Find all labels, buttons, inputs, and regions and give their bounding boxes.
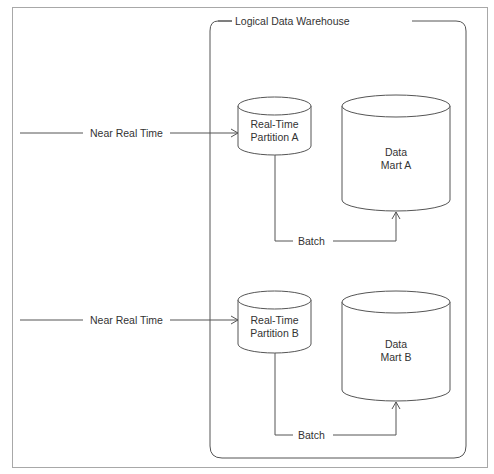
data-mart-a-top [342,95,450,117]
flow-b: Near Real Time Real-Time Partition B Dat… [20,291,450,441]
container-title: Logical Data Warehouse [235,15,350,27]
partition-a-label-1: Real-Time [250,118,298,130]
partition-a-label-2: Partition A [251,131,299,143]
batch-line-a-left [275,155,293,241]
batch-arrow-a [333,212,396,241]
data-mart-a-label-1: Data [385,146,407,158]
nrt-label-b: Near Real Time [90,314,163,326]
diagram-canvas: Logical Data Warehouse Near Real Time Re… [0,0,494,474]
data-mart-b-label-1: Data [385,338,407,350]
partition-b-top [238,291,311,309]
partition-a-cylinder[interactable]: Real-Time Partition A [238,97,311,155]
data-mart-a-label-2: Mart A [381,159,411,171]
batch-arrow-b [333,402,396,435]
flow-a: Near Real Time Real-Time Partition A Dat… [20,95,450,247]
nrt-label-a: Near Real Time [90,127,163,139]
data-mart-b-cylinder[interactable]: Data Mart B [342,291,450,401]
partition-b-cylinder[interactable]: Real-Time Partition B [238,291,311,353]
partition-a-top [238,97,311,115]
partition-b-label-2: Partition B [250,327,298,339]
data-mart-b-top [342,291,450,313]
batch-label-b: Batch [298,429,325,441]
batch-line-b-left [275,353,293,435]
partition-b-label-1: Real-Time [250,314,298,326]
batch-label-a: Batch [298,235,325,247]
data-mart-a-cylinder[interactable]: Data Mart A [342,95,450,211]
data-mart-b-label-2: Mart B [381,351,412,363]
